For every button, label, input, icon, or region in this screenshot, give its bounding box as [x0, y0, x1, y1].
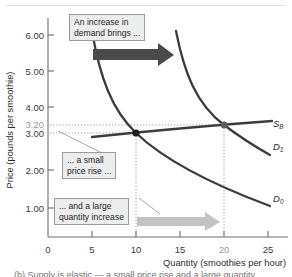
- x-tick-label-0: 0: [45, 244, 50, 255]
- callout-increase-in-demand: An increase in demand brings ...: [69, 14, 145, 41]
- y-tick-label-5: 5.00: [26, 66, 45, 77]
- curve-demand-1: [176, 31, 270, 155]
- x-tick-label-5: 25: [263, 244, 274, 255]
- x-tick-label-2: 10: [131, 244, 142, 255]
- x-tick-label-3: 15: [175, 244, 186, 255]
- y-tick-label-0: 1.00: [26, 203, 45, 214]
- equilibrium-marker-new: [221, 122, 228, 129]
- y-tick-label-2: 3.00: [26, 128, 45, 139]
- y-tick-label-1: 2.00: [26, 165, 45, 176]
- figure-panel: Price (pounds per smoothie) 6.00 5.00 4.…: [0, 0, 292, 277]
- supply-demand-chart: Price (pounds per smoothie) 6.00 5.00 4.…: [0, 0, 292, 277]
- quantity-increase-arrow-icon: [137, 212, 220, 231]
- leader-line-price-rise: [58, 131, 100, 152]
- y-axis-title: Price (pounds per smoothie): [5, 72, 15, 189]
- figure-caption: (b) Supply is elastic — a small price ri…: [14, 270, 284, 277]
- callout-large-quantity-increase: ... and a large quantity increase: [54, 198, 129, 225]
- x-axis-ticks: [92, 231, 268, 237]
- callout-small-price-rise: ... a small price rise ...: [62, 152, 116, 179]
- y-tick-label-6: 6.00: [26, 30, 45, 41]
- equilibrium-marker-initial: [132, 129, 139, 136]
- curve-label-demand-1: D1: [273, 141, 284, 153]
- curve-supply-b: [92, 121, 272, 137]
- x-tick-label-1: 5: [89, 244, 94, 255]
- leader-line-quantity-increase: [139, 198, 160, 214]
- x-tick-label-4: 20: [219, 244, 230, 255]
- y-axis-ticks: [48, 35, 54, 208]
- y-tick-label-4: 4.00: [26, 102, 45, 113]
- demand-shift-arrow-icon: [93, 43, 174, 66]
- curve-label-demand-0: D0: [273, 193, 284, 205]
- curve-label-supply-b: SB: [273, 118, 284, 130]
- x-axis-title: Quantity (smoothies per hour): [163, 258, 286, 268]
